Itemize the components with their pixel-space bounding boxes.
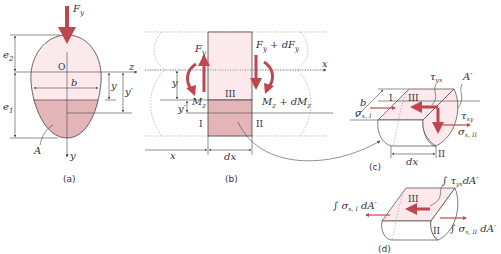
- panel-d-force-resultants: III II ∫ τyxdA′ ∫ σx, I dA′ ∫ σx, II dA′…: [333, 175, 497, 254]
- panel-c-isolated-element: dx b I III II σx, I τyx τxy σx, II A′ (c…: [350, 71, 480, 172]
- svg-text:y: y: [171, 77, 178, 88]
- svg-text:y′: y′: [177, 103, 187, 114]
- svg-text:I: I: [389, 93, 393, 103]
- svg-text:∫ τyxdA′: ∫ τyxdA′: [442, 175, 479, 188]
- svg-text:x: x: [170, 150, 176, 161]
- svg-text:dx: dx: [224, 151, 236, 162]
- svg-text:II: II: [438, 149, 446, 159]
- svg-text:τxy: τxy: [461, 110, 474, 123]
- svg-text:dx: dx: [406, 156, 418, 167]
- shear-stress-diagram: Fy O z y e2 e1 b y y′ A (a): [0, 0, 501, 254]
- panel-a-cross-section: Fy O z y e2 e1 b y y′ A (a): [3, 3, 137, 184]
- svg-text:Fy: Fy: [72, 3, 85, 17]
- svg-text:I: I: [199, 119, 203, 129]
- element-region-I-II: [208, 100, 252, 136]
- caption-d: (d): [378, 244, 391, 254]
- svg-text:Mz: Mz: [191, 96, 206, 110]
- panel-b-beam-element: x III I II Fy Mz Fy + dFy Mz + dMz y: [145, 32, 380, 184]
- svg-text:II: II: [256, 119, 264, 129]
- svg-text:Fy + dFy: Fy + dFy: [255, 39, 300, 53]
- svg-text:y′: y′: [124, 86, 134, 97]
- svg-text:x: x: [322, 58, 328, 69]
- svg-text:III: III: [408, 93, 419, 103]
- svg-text:y: y: [69, 150, 76, 161]
- svg-text:e2: e2: [3, 49, 14, 63]
- svg-text:∫ σx, II dA′: ∫ σx, II dA′: [450, 223, 497, 235]
- svg-text:III: III: [225, 89, 236, 99]
- svg-text:Mz + dMz: Mz + dMz: [261, 96, 311, 110]
- caption-c: (c): [369, 162, 381, 172]
- svg-text:III: III: [408, 194, 419, 204]
- left-moment-arrow-icon: [186, 64, 196, 96]
- right-moment-arrow-icon: [264, 62, 274, 94]
- svg-text:O: O: [58, 62, 65, 72]
- svg-text:σx, II: σx, II: [458, 126, 477, 138]
- svg-text:σx, I: σx, I: [355, 107, 372, 119]
- svg-text:y: y: [110, 80, 117, 91]
- svg-text:∫ σx, I dA′: ∫ σx, I dA′: [333, 200, 378, 212]
- svg-text:τyx: τyx: [430, 71, 443, 84]
- svg-text:e1: e1: [3, 101, 13, 115]
- svg-text:A′: A′: [462, 71, 473, 82]
- caption-b: (b): [225, 174, 238, 184]
- svg-text:II: II: [433, 226, 441, 236]
- svg-text:b: b: [71, 77, 77, 88]
- svg-text:Fy: Fy: [194, 43, 207, 57]
- svg-text:A: A: [33, 145, 41, 156]
- svg-text:z: z: [128, 61, 135, 72]
- caption-a: (a): [63, 174, 76, 184]
